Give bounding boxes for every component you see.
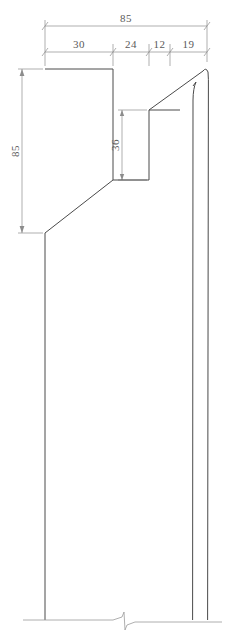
profile-outline-group bbox=[45, 69, 208, 620]
dimension-text-overall-width: 85 bbox=[120, 12, 132, 24]
tip-curve bbox=[203, 69, 208, 72]
dimension-text-chain-24: 24 bbox=[125, 38, 137, 50]
dimension-text-overall-height: 85 bbox=[9, 145, 21, 157]
top-block-outline bbox=[45, 69, 113, 180]
arrowhead-36-top bbox=[120, 110, 124, 116]
lower-chamfer-diagonal bbox=[45, 180, 113, 233]
dimension-text-chain-19: 19 bbox=[183, 38, 195, 50]
arrowhead-85v-top bbox=[20, 69, 25, 76]
dimension-text-notch-depth: 36 bbox=[109, 139, 121, 151]
arrowhead-36-bottom bbox=[120, 174, 124, 180]
notch-dimension-group bbox=[118, 110, 147, 180]
rising-diagonal-flank bbox=[149, 71, 203, 110]
right-inner-edge bbox=[193, 82, 196, 620]
arrowhead-85v-bottom bbox=[20, 226, 25, 233]
technical-drawing-canvas: 85 30 24 12 19 85 36 bbox=[0, 0, 234, 639]
left-dimension-group bbox=[18, 69, 43, 233]
right-outer-edge bbox=[208, 72, 209, 620]
break-zigzag-icon bbox=[113, 612, 135, 630]
cad-drawing-svg: 85 30 24 12 19 85 36 bbox=[0, 0, 234, 639]
dimension-text-chain-12: 12 bbox=[154, 38, 166, 50]
dimension-text-chain-30: 30 bbox=[73, 38, 85, 50]
